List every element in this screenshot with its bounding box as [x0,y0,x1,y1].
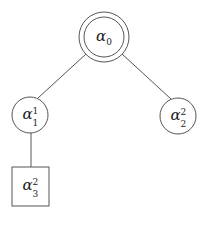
leaf-sub: 3 [33,189,39,199]
left-sub: 1 [33,118,39,128]
left-sup: 1 [33,106,39,116]
root-sub: 0 [106,37,112,47]
left-symbol: α [22,105,32,123]
left-label: α11 [22,105,39,123]
right-symbol: α [170,106,180,124]
edge-root-right [122,54,171,99]
leaf-label: α23 [22,176,39,194]
right-sub: 2 [181,119,187,129]
root-symbol: α [96,27,106,45]
root-label: α0 [96,27,112,47]
edge-root-left [38,54,86,98]
leaf-symbol: α [22,176,32,194]
leaf-sup: 2 [33,177,39,187]
right-label: α22 [170,106,187,124]
right-sup: 2 [181,107,187,117]
